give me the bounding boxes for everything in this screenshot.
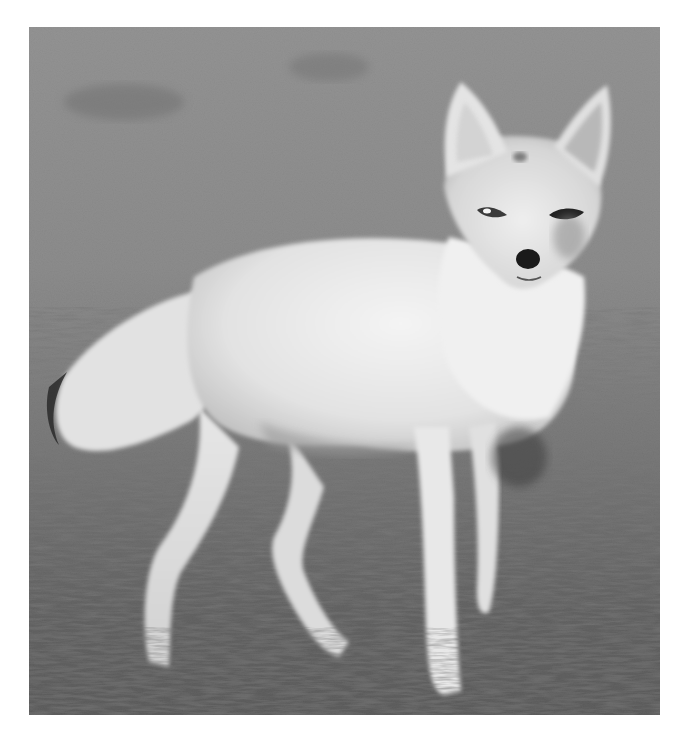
grass-dark-patch: [64, 84, 184, 120]
fox-nose: [516, 249, 540, 269]
fox-photograph: [29, 27, 660, 715]
fox-photo-svg: [29, 27, 660, 715]
fox-chest-shadow: [491, 427, 547, 487]
fox-eye-left-glint: [483, 209, 491, 214]
grass-dark-patch: [289, 53, 369, 81]
fox-forehead-mark: [513, 152, 527, 162]
grass-foreground: [29, 627, 660, 715]
fox-eye-right-patch: [553, 215, 585, 259]
